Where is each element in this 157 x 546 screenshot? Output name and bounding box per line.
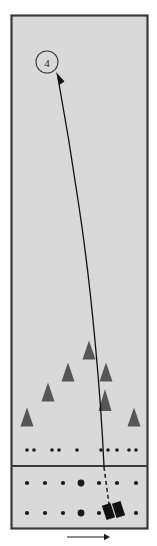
dot-marker bbox=[97, 511, 101, 515]
dot-marker bbox=[25, 448, 29, 452]
dot-marker bbox=[25, 481, 29, 485]
dot-marker bbox=[115, 448, 119, 452]
callout-label: 4 bbox=[44, 57, 50, 69]
dot-marker bbox=[127, 448, 131, 452]
dot-marker bbox=[50, 448, 54, 452]
dot-marker bbox=[115, 481, 119, 485]
dot-marker bbox=[134, 511, 138, 515]
dot-marker bbox=[78, 480, 85, 487]
figure-root: 4 bbox=[0, 0, 157, 546]
dot-marker bbox=[25, 511, 29, 515]
dot-marker bbox=[106, 448, 110, 452]
dot-marker bbox=[61, 481, 65, 485]
dot-marker bbox=[43, 481, 47, 485]
dot-marker bbox=[43, 511, 47, 515]
dot-marker bbox=[57, 448, 61, 452]
dot-marker bbox=[75, 448, 79, 452]
dot-marker bbox=[78, 510, 85, 517]
diagram-canvas: 4 bbox=[0, 0, 157, 546]
dot-marker bbox=[134, 481, 138, 485]
dot-marker bbox=[134, 448, 138, 452]
dot-marker bbox=[99, 448, 103, 452]
dot-marker bbox=[61, 511, 65, 515]
dot-marker bbox=[97, 481, 101, 485]
dot-marker bbox=[32, 448, 36, 452]
main-panel-frame bbox=[12, 16, 148, 529]
